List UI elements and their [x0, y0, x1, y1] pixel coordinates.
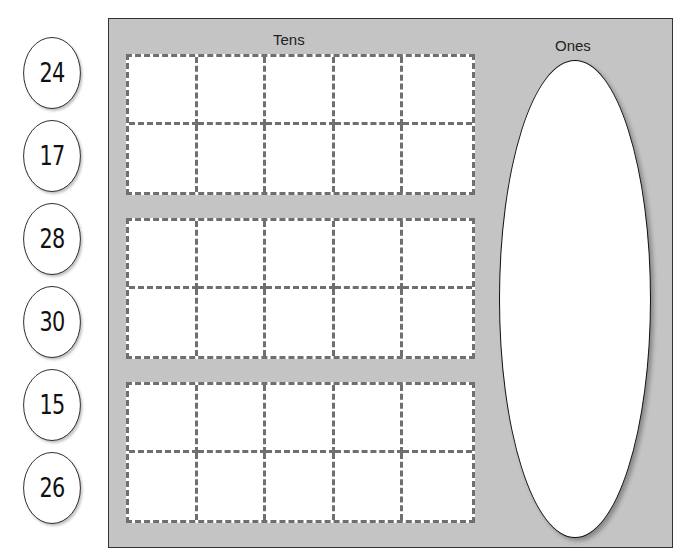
- frame-cell[interactable]: [129, 57, 198, 125]
- frame-cell[interactable]: [335, 289, 404, 357]
- frame-cell[interactable]: [403, 385, 472, 453]
- ones-oval[interactable]: [499, 60, 651, 538]
- number-card[interactable]: 15: [23, 369, 81, 441]
- frame-cell[interactable]: [198, 57, 267, 125]
- frame-cell[interactable]: [198, 453, 267, 521]
- frame-cell[interactable]: [198, 221, 267, 289]
- number-value: 26: [40, 473, 65, 503]
- number-card[interactable]: 17: [23, 120, 81, 192]
- frame-cell[interactable]: [335, 385, 404, 453]
- frame-cell[interactable]: [266, 385, 335, 453]
- number-value: 17: [40, 141, 65, 171]
- frame-cell[interactable]: [403, 57, 472, 125]
- frame-cell[interactable]: [335, 221, 404, 289]
- frame-cell[interactable]: [335, 453, 404, 521]
- number-card[interactable]: 24: [23, 37, 81, 109]
- frame-cell[interactable]: [198, 385, 267, 453]
- frame-cell[interactable]: [198, 125, 267, 193]
- frame-cell[interactable]: [266, 289, 335, 357]
- tens-label: Tens: [273, 31, 305, 48]
- frame-cell[interactable]: [403, 125, 472, 193]
- frame-cell[interactable]: [129, 221, 198, 289]
- frame-cell[interactable]: [266, 125, 335, 193]
- frame-cell[interactable]: [403, 289, 472, 357]
- ones-label: Ones: [555, 37, 591, 54]
- number-value: 15: [40, 390, 65, 420]
- ten-frame-1[interactable]: [126, 54, 475, 195]
- frame-cell[interactable]: [403, 221, 472, 289]
- frame-cell[interactable]: [129, 453, 198, 521]
- frame-cell[interactable]: [266, 57, 335, 125]
- frame-cell[interactable]: [335, 57, 404, 125]
- frame-cell[interactable]: [335, 125, 404, 193]
- frame-cell[interactable]: [129, 289, 198, 357]
- number-card[interactable]: 28: [23, 203, 81, 275]
- number-value: 30: [40, 307, 65, 337]
- number-value: 24: [40, 58, 65, 88]
- frame-cell[interactable]: [403, 453, 472, 521]
- number-card[interactable]: 30: [23, 286, 81, 358]
- number-value: 28: [40, 224, 65, 254]
- place-value-mat: Tens Ones: [108, 18, 673, 548]
- frame-cell[interactable]: [129, 385, 198, 453]
- frame-cell[interactable]: [266, 453, 335, 521]
- ten-frame-2[interactable]: [126, 218, 475, 359]
- ten-frame-3[interactable]: [126, 382, 475, 523]
- frame-cell[interactable]: [266, 221, 335, 289]
- frame-cell[interactable]: [129, 125, 198, 193]
- number-card[interactable]: 26: [23, 452, 81, 524]
- frame-cell[interactable]: [198, 289, 267, 357]
